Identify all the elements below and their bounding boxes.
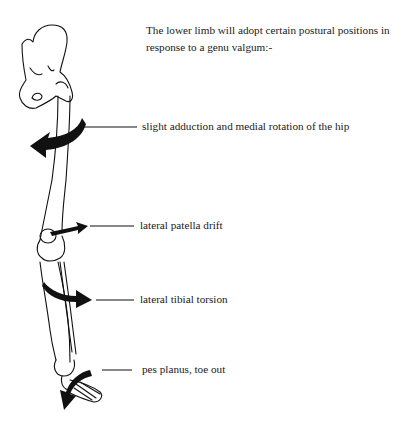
label-tibial: lateral tibial torsion: [140, 293, 228, 305]
femur-outline: [40, 96, 58, 240]
patella-drift-arrow-icon: [50, 222, 88, 236]
label-foot: pes planus, toe out: [142, 363, 225, 375]
pelvis-outline: [19, 25, 72, 108]
label-hip: slight adduction and medial rotation of …: [142, 120, 349, 132]
patella: [40, 229, 56, 243]
label-patella: lateral patella drift: [140, 219, 223, 231]
hip-rotation-arrow-icon: [30, 118, 86, 158]
tibia-outline: [40, 262, 56, 360]
